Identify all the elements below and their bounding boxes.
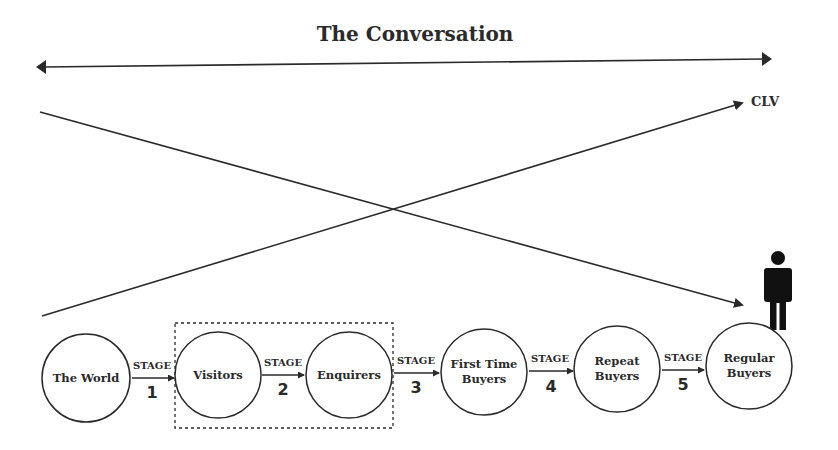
stage-label: STAGE <box>664 352 702 363</box>
descending-arrow <box>40 112 742 305</box>
node-label: Visitors <box>192 368 242 382</box>
stage-number: 4 <box>545 377 556 396</box>
stage-label: STAGE <box>531 353 569 364</box>
node-repeat-buyers: Repeat Buyers <box>574 326 660 412</box>
stage-label: STAGE <box>133 360 171 371</box>
node-the-world: The World <box>42 334 130 422</box>
person-icon <box>764 251 792 330</box>
arrow-right-icon <box>762 52 772 66</box>
node-visitors: Visitors <box>175 332 261 418</box>
stage-number: 3 <box>410 378 421 397</box>
arrow-left-icon <box>36 60 46 74</box>
diagram-svg: The Conversation CLV The World Visitors <box>0 0 838 450</box>
conversation-double-arrow <box>36 52 772 74</box>
node-label: Buyers <box>462 372 507 386</box>
node-label: Repeat <box>595 354 641 368</box>
stage-number: 2 <box>277 380 288 399</box>
node-label: Regular <box>723 351 775 365</box>
node-first-time-buyers: First Time Buyers <box>441 329 527 415</box>
diagram-title: The Conversation <box>317 22 514 46</box>
stage-label: STAGE <box>397 355 435 366</box>
stage-1-connector: STAGE 1 <box>132 360 174 402</box>
stage-2-connector: STAGE 2 <box>262 357 304 399</box>
stage-3-connector: STAGE 3 <box>394 355 439 397</box>
node-label: First Time <box>451 357 518 371</box>
node-label: Buyers <box>595 369 640 383</box>
node-label: The World <box>53 371 119 385</box>
stage-5-connector: STAGE 5 <box>662 352 704 394</box>
node-regular-buyers: Regular Buyers <box>706 323 792 409</box>
stage-number: 5 <box>677 375 688 394</box>
node-enquirers: Enquirers <box>306 332 392 418</box>
node-label: Enquirers <box>317 368 381 382</box>
stage-label: STAGE <box>264 357 302 368</box>
node-label: Buyers <box>727 366 772 380</box>
clv-label: CLV <box>751 94 780 109</box>
clv-ascending-arrow <box>42 103 742 316</box>
stage-number: 1 <box>146 383 157 402</box>
stage-4-connector: STAGE 4 <box>529 353 573 396</box>
customer-journey-diagram: The Conversation CLV The World Visitors <box>0 0 838 450</box>
